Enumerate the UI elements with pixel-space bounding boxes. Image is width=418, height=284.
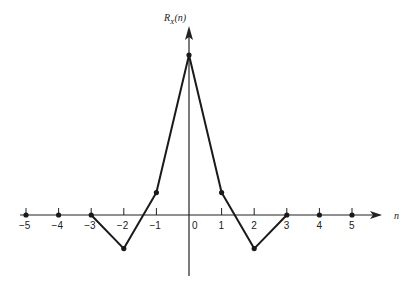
x-tick-label: −1 <box>149 220 161 231</box>
data-point <box>121 246 126 251</box>
data-point <box>186 52 191 57</box>
x-tick-label: 2 <box>251 220 257 231</box>
axis-labels: RX(n) n <box>163 12 399 221</box>
data-point <box>219 190 224 195</box>
autocorrelation-chart: −5−4−3−2−1012345 RX(n) n <box>0 0 418 284</box>
x-tick-label: −3 <box>84 220 96 231</box>
data-point <box>23 212 28 217</box>
data-point <box>252 246 257 251</box>
data-point <box>89 212 94 217</box>
x-tick-label: 3 <box>284 220 290 231</box>
x-axis-label: n <box>394 210 399 221</box>
x-tick-label: 0 <box>192 220 198 231</box>
data-point <box>154 190 159 195</box>
x-ticks: −5−4−3−2−1012345 <box>19 208 355 231</box>
data-point <box>349 212 354 217</box>
x-tick-label: 5 <box>349 220 355 231</box>
x-tick-label: −2 <box>117 220 129 231</box>
data-point <box>56 212 61 217</box>
x-tick-label: 4 <box>316 220 322 231</box>
y-axis-label: RX(n) <box>163 12 187 26</box>
data-point <box>317 212 322 217</box>
data-point <box>284 212 289 217</box>
x-tick-label: −5 <box>19 220 31 231</box>
x-tick-label: −4 <box>52 220 64 231</box>
axes <box>20 26 382 276</box>
x-tick-label: 1 <box>219 220 225 231</box>
